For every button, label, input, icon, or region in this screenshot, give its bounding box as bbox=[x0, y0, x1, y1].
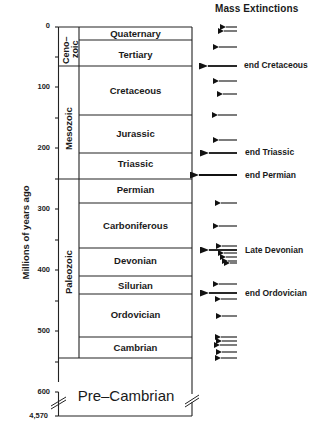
extinction-arrows bbox=[218, 27, 237, 358]
extinction-label-end-triassic: end Triassic bbox=[245, 147, 294, 157]
period-triassic: Triassic bbox=[79, 158, 192, 169]
extinction-label-end-ordovician: end Ordovician bbox=[245, 288, 307, 298]
period-carboniferous: Carboniferous bbox=[79, 220, 192, 231]
period-quaternary: Quaternary bbox=[79, 28, 192, 39]
period-jurassic: Jurassic bbox=[79, 128, 192, 139]
period-cambrian: Cambrian bbox=[79, 342, 192, 353]
extinction-label-end-cretaceous: end Cretaceous bbox=[244, 60, 308, 70]
geologic-timescale-figure: Mass Extinctions Millions of years ago 0… bbox=[0, 0, 323, 430]
period-tertiary: Tertiary bbox=[79, 49, 192, 60]
period-devonian: Devonian bbox=[79, 255, 192, 266]
period-ordovician: Ordovician bbox=[79, 309, 192, 320]
major-extinction-arrows bbox=[199, 66, 237, 293]
period-cretaceous: Cretaceous bbox=[79, 85, 192, 96]
period-precambrian: Pre–Cambrian bbox=[60, 387, 192, 404]
era-label-mesozoic: Mesozoic bbox=[64, 107, 74, 150]
extinction-label-late-devonian: Late Devonian bbox=[245, 245, 303, 255]
extinction-label-end-permian: end Permian bbox=[245, 170, 296, 180]
period-silurian: Silurian bbox=[79, 280, 192, 291]
era-label-paleozoic: Paleozoic bbox=[64, 250, 74, 294]
period-permian: Permian bbox=[79, 184, 192, 195]
